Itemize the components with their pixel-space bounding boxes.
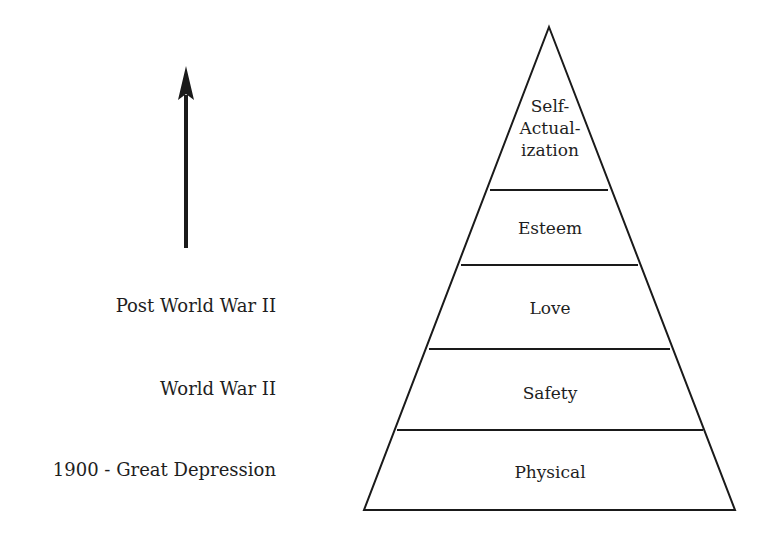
era-label-post-ww2: Post World War II xyxy=(116,295,276,316)
level-self-actualization: Self- Actual- ization xyxy=(520,95,581,161)
level-label-line: Self- xyxy=(520,95,581,117)
level-label-line: Actual- xyxy=(520,117,581,139)
needs-hierarchy-diagram: Self- Actual- ization Esteem Love Safety… xyxy=(0,0,760,545)
level-love: Love xyxy=(529,297,570,319)
level-label-line: ization xyxy=(520,139,581,161)
era-label-1900-great-depression: 1900 - Great Depression xyxy=(53,459,276,480)
era-label-ww2: World War II xyxy=(160,378,276,399)
level-physical: Physical xyxy=(514,461,585,483)
level-esteem: Esteem xyxy=(518,217,582,239)
level-safety: Safety xyxy=(523,382,578,404)
up-arrow-icon xyxy=(178,66,194,248)
